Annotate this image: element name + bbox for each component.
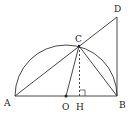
segment-CB — [79, 46, 117, 96]
diagram-canvas: A O H B C D — [0, 0, 132, 115]
right-angle-mark — [80, 90, 85, 96]
label-C: C — [75, 34, 82, 44]
segment-OC — [66, 46, 79, 96]
semicircle-arc — [15, 45, 117, 96]
label-O: O — [62, 102, 69, 112]
label-A: A — [3, 98, 11, 108]
label-D: D — [114, 4, 121, 14]
segment-AD — [15, 17, 117, 96]
label-H: H — [76, 102, 84, 112]
geometry-figure: A O H B C D — [0, 0, 132, 115]
point-O-dot — [65, 95, 68, 98]
label-B: B — [119, 100, 126, 110]
point-C-dot — [78, 45, 80, 47]
